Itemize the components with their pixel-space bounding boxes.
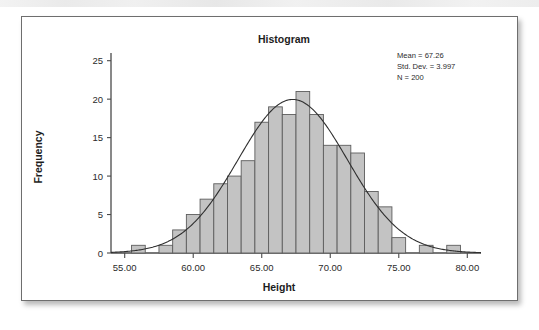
- histogram-bar: [214, 184, 228, 253]
- histogram-bar: [365, 191, 379, 253]
- y-axis-title: Frequency: [32, 130, 44, 183]
- x-tick-label: 80.00: [455, 262, 479, 273]
- y-tick-label: 5: [98, 209, 103, 220]
- histogram-bar: [227, 176, 241, 253]
- histogram-bar: [282, 115, 296, 253]
- histogram-bar: [323, 145, 337, 253]
- x-tick-label: 70.00: [318, 262, 342, 273]
- stat-n: N = 200: [397, 73, 424, 82]
- histogram-bar: [392, 238, 406, 253]
- histogram-bar: [159, 245, 173, 253]
- x-axis-title: Height: [263, 281, 296, 293]
- x-tick-label: 75.00: [387, 262, 411, 273]
- x-tick-label: 65.00: [250, 262, 274, 273]
- y-tick-label: 25: [92, 55, 103, 66]
- histogram-bar: [186, 215, 200, 253]
- histogram-bar: [241, 161, 255, 253]
- y-tick-label: 15: [92, 132, 103, 143]
- stats-annotation: Mean = 67.26 Std. Dev. = 3.997 N = 200: [397, 51, 455, 82]
- stat-std-dev: Std. Dev. = 3.997: [397, 62, 455, 71]
- histogram-svg: Histogram Mean = 67.26 Std. Dev. = 3.997…: [22, 17, 517, 300]
- y-tick-label: 10: [92, 171, 103, 182]
- histogram-bar: [310, 115, 324, 253]
- histogram-bar: [378, 207, 392, 253]
- bars-layer: [132, 91, 461, 253]
- x-tick-label: 60.00: [181, 262, 205, 273]
- x-tick-label: 55.00: [113, 262, 137, 273]
- figure-card: Histogram Mean = 67.26 Std. Dev. = 3.997…: [21, 16, 518, 301]
- chart-title: Histogram: [258, 33, 310, 45]
- histogram-bar: [296, 91, 310, 253]
- histogram-bar: [255, 122, 269, 253]
- scan-artifact-band: [0, 0, 539, 7]
- y-tick-label: 0: [98, 248, 103, 259]
- stat-mean: Mean = 67.26: [397, 51, 444, 60]
- histogram-bar: [269, 107, 283, 253]
- y-tick-label: 20: [92, 94, 103, 105]
- histogram-bar: [173, 230, 187, 253]
- histogram-plot: Histogram Mean = 67.26 Std. Dev. = 3.997…: [22, 17, 517, 300]
